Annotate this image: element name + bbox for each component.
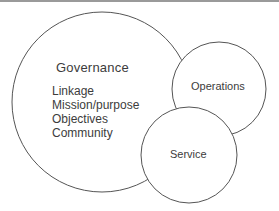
governance-title: Governance — [56, 60, 129, 75]
governance-item: Community — [52, 126, 139, 140]
governance-item: Mission/purpose — [52, 98, 139, 112]
governance-item: Objectives — [52, 112, 139, 126]
operations-label: Operations — [191, 80, 245, 92]
governance-items-list: Linkage Mission/purpose Objectives Commu… — [52, 84, 139, 140]
venn-diagram — [0, 0, 279, 211]
service-label: Service — [170, 148, 207, 160]
governance-item: Linkage — [52, 84, 139, 98]
